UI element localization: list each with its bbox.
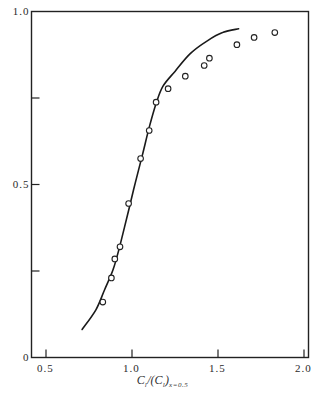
data-point-open-circle-icon xyxy=(138,156,144,162)
x-axis-ticks xyxy=(46,350,304,358)
data-point-open-circle-icon xyxy=(146,128,152,134)
data-point-open-circle-icon xyxy=(117,244,123,250)
chart-plot xyxy=(0,0,319,397)
y-tick-label: 1.0 xyxy=(13,6,30,17)
data-point-open-circle-icon xyxy=(251,35,257,41)
x-axis-label-mid: /(C xyxy=(147,373,162,387)
x-tick-label: 2.0 xyxy=(295,363,312,374)
data-point-open-circle-icon xyxy=(183,73,189,79)
x-tick-label: 1.5 xyxy=(209,363,226,374)
x-axis-label-sub3: x=0.5 xyxy=(169,381,188,389)
data-point-open-circle-icon xyxy=(153,99,159,105)
data-point-open-circle-icon xyxy=(109,275,115,281)
data-point-open-circle-icon xyxy=(126,201,132,207)
y-axis-ticks xyxy=(32,98,40,271)
y-tick-label: 0 xyxy=(23,352,30,363)
plot-frame xyxy=(32,12,309,358)
x-tick-label: 0.5 xyxy=(37,363,54,374)
theory-curve xyxy=(82,29,239,330)
data-point-open-circle-icon xyxy=(234,42,240,48)
data-point-open-circle-icon xyxy=(207,55,213,61)
data-point-open-circle-icon xyxy=(165,86,171,92)
data-point-open-circle-icon xyxy=(112,256,118,262)
x-tick-label: 1.0 xyxy=(123,363,140,374)
data-point-open-circle-icon xyxy=(272,30,278,36)
data-point-open-circle-icon xyxy=(100,299,106,305)
y-tick-label: 0.5 xyxy=(13,179,30,190)
x-axis-label: Cl/(Cl)x=0.5 xyxy=(0,373,319,389)
data-points xyxy=(100,30,278,305)
x-axis-label-c1: C xyxy=(137,373,145,387)
data-point-open-circle-icon xyxy=(201,63,207,69)
